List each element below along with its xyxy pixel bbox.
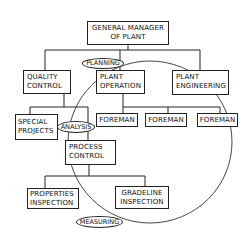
foreman-box-1: FOREMAN: [96, 113, 138, 127]
planning-label: PLANNING: [86, 59, 120, 67]
foreman-box-3: FOREMAN: [197, 113, 238, 127]
quality-control-line2: CONTROL: [27, 82, 67, 91]
plant-operation-box: PLANT OPERATION: [96, 70, 145, 94]
org-chart-diagram: GENERAL MANAGER OF PLANT QUALITY CONTROL…: [0, 0, 249, 240]
planning-oval: PLANNING: [82, 58, 124, 69]
measuring-label: MEASURING: [80, 218, 119, 226]
plant-engineering-line1: PLANT: [176, 73, 225, 82]
process-control-line1: PROCESS: [69, 143, 112, 152]
general-manager-line2: OF PLANT: [91, 33, 165, 42]
plant-engineering-box: PLANT ENGINEERING: [172, 70, 229, 95]
process-control-line2: CONTROL: [69, 152, 112, 161]
analysis-label: ANALYSIS: [61, 123, 92, 131]
properties-inspection-box: PROPERTIES INSPECTION: [27, 188, 79, 209]
plant-operation-line1: PLANT: [100, 73, 141, 82]
gradeline-inspection-box: GRADELINE INSPECTION: [115, 186, 169, 209]
plant-operation-line2: OPERATION: [100, 82, 141, 91]
properties-inspection-line2: INSPECTION: [30, 199, 76, 208]
gradeline-inspection-line2: INSPECTION: [118, 198, 166, 207]
general-manager-box: GENERAL MANAGER OF PLANT: [87, 21, 169, 45]
special-projects-box: SPECIAL PROJECTS: [15, 114, 58, 140]
foreman-box-2: FOREMAN: [145, 113, 187, 127]
analysis-oval: ANALYSIS: [57, 121, 95, 133]
properties-inspection-line1: PROPERTIES: [30, 190, 76, 199]
foreman-1-label: FOREMAN: [99, 116, 135, 124]
quality-control-line1: QUALITY: [27, 73, 67, 82]
special-projects-line2: PROJECTS: [18, 127, 55, 136]
general-manager-line1: GENERAL MANAGER: [91, 24, 165, 33]
foreman-3-label: FOREMAN: [200, 116, 236, 124]
gradeline-inspection-line1: GRADELINE: [118, 189, 166, 198]
measuring-oval: MEASURING: [76, 216, 123, 228]
plant-engineering-line2: ENGINEERING: [176, 82, 225, 91]
special-projects-line1: SPECIAL: [18, 118, 55, 127]
foreman-2-label: FOREMAN: [148, 116, 184, 124]
process-control-box: PROCESS CONTROL: [65, 140, 116, 165]
quality-control-box: QUALITY CONTROL: [23, 70, 71, 94]
